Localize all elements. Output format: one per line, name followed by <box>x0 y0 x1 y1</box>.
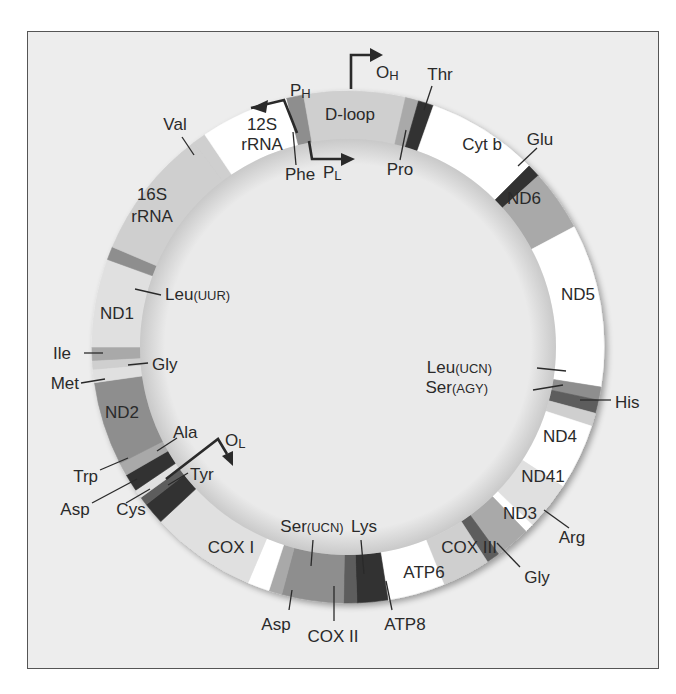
callout-asp: Asp <box>60 500 89 519</box>
callout-ser-agy: Ser(AGY) <box>425 378 488 397</box>
label-atp6: ATP6 <box>403 563 444 582</box>
ring-interior <box>140 139 556 555</box>
label-cyt-b: Cyt b <box>462 135 502 154</box>
label-oh: OH <box>376 63 399 83</box>
label-nd41: ND41 <box>521 467 564 486</box>
mtdna-circular-map: ValPheProThrGluLeu(UUR)IleGlyMetAlaTrpTy… <box>0 0 676 694</box>
callout-cys: Cys <box>116 500 145 519</box>
callout-lys: Lys <box>351 517 377 536</box>
segment-lys <box>344 555 357 603</box>
callout-phe: Phe <box>285 165 315 184</box>
segment-ile <box>92 347 140 360</box>
leader-line-glu <box>518 148 537 166</box>
callout-ser-ucn: Ser(UCN) <box>280 517 343 536</box>
label-nd6: ND6 <box>507 189 541 208</box>
callout-atp8: ATP8 <box>384 615 425 634</box>
label-nd1: ND1 <box>100 304 134 323</box>
callout-ala: Ala <box>173 423 198 442</box>
arrowhead-icon <box>370 48 383 62</box>
callout-pro: Pro <box>387 160 413 179</box>
callout-glu: Glu <box>527 130 553 149</box>
label-nd5: ND5 <box>561 285 595 304</box>
callout-leu-uur: Leu(UUR) <box>165 285 230 304</box>
callout-gly: Gly <box>524 568 550 587</box>
callout-leu-ucn: Leu(UCN) <box>427 358 492 377</box>
label-cox-i: COX I <box>208 538 254 557</box>
callout-gly: Gly <box>152 355 178 374</box>
callout-ile: Ile <box>53 344 71 363</box>
label-nd2: ND2 <box>105 403 139 422</box>
label-d-loop: D-loop <box>325 105 375 124</box>
label-12s: 12S <box>247 115 277 134</box>
label-cox-iii: COX III <box>441 538 497 557</box>
leader-line-arg <box>544 510 569 528</box>
callout-val: Val <box>163 115 186 134</box>
callout-thr: Thr <box>427 65 453 84</box>
label-rrna: rRNA <box>131 207 173 226</box>
label-16s: 16S <box>137 185 167 204</box>
callout-trp: Trp <box>73 467 98 486</box>
callout-his: His <box>615 393 640 412</box>
callout-asp: Asp <box>261 615 290 634</box>
callout-tyr: Tyr <box>190 465 214 484</box>
callout-cox-ii: COX II <box>307 627 358 646</box>
label-rrna: rRNA <box>241 135 283 154</box>
label-nd3: ND3 <box>503 504 537 523</box>
callout-arg: Arg <box>559 528 585 547</box>
label-ph: PH <box>290 81 311 101</box>
callout-met: Met <box>51 374 80 393</box>
label-nd4: ND4 <box>543 427 577 446</box>
